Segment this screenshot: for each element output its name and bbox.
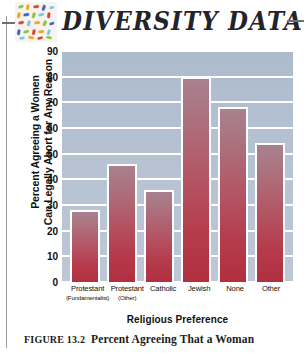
x-tick-label-main: Protestant [111,284,144,293]
figure-caption-text: Percent Agreeing That a Woman [91,333,254,345]
bar-slot [215,51,252,282]
brand-title: DIVERSITY DATA [62,2,282,42]
bar[interactable] [144,190,174,282]
plot-area [62,51,293,282]
header-rule-right-icon [287,20,304,22]
bar-slot [140,51,177,282]
x-axis-title: Religious Preference [62,314,293,325]
x-tick-label-sub: (Other) [109,293,145,302]
x-tick-label-main: Other [262,284,280,293]
x-tick-label: Jewish [181,284,217,310]
y-tick-label: 0 [36,277,58,288]
x-tick-label-main: Protestant [71,284,104,293]
y-tick-label: 90 [36,46,58,57]
figure-caption: FIGURE 13.2Percent Agreeing That a Woman [24,333,302,345]
bar[interactable] [70,210,100,282]
bar-slot [252,51,289,282]
x-tick-label: Protestant(Other) [109,284,145,310]
bar[interactable] [218,107,248,282]
figure-number: FIGURE 13.2 [24,334,85,345]
bar[interactable] [181,77,211,282]
header-rule-left-icon [2,22,16,24]
y-tick-label: 20 [36,225,58,236]
y-tick-label: 40 [36,174,58,185]
y-tick-label: 30 [36,200,58,211]
x-tick-label-main: None [226,284,244,293]
x-axis-tick-labels: Protestant(Fundamentalist)Protestant(Oth… [62,284,293,310]
y-tick-label: 10 [36,251,58,262]
bar[interactable] [255,143,285,282]
y-tick-label: 50 [36,148,58,159]
x-tick-label: None [217,284,253,310]
bar-chart: Percent Agreeing a Women Can Legally Abo… [0,44,306,294]
x-tick-label: Protestant(Fundamentalist) [66,284,109,310]
y-tick-label: 70 [36,97,58,108]
bar-slot [66,51,103,282]
x-tick-label-main: Jewish [188,284,210,293]
y-axis-tick-labels: 0102030405060708090 [36,44,58,284]
bar[interactable] [107,164,137,282]
y-tick-label: 60 [36,123,58,134]
y-tick-label: 80 [36,71,58,82]
x-tick-label-main: Catholic [150,284,176,293]
bar-slot [178,51,215,282]
bar-slot [103,51,140,282]
x-tick-label: Other [253,284,289,310]
bar-series [62,51,293,282]
x-tick-label-sub: (Fundamentalist) [66,293,109,302]
x-tick-label: Catholic [145,284,181,310]
